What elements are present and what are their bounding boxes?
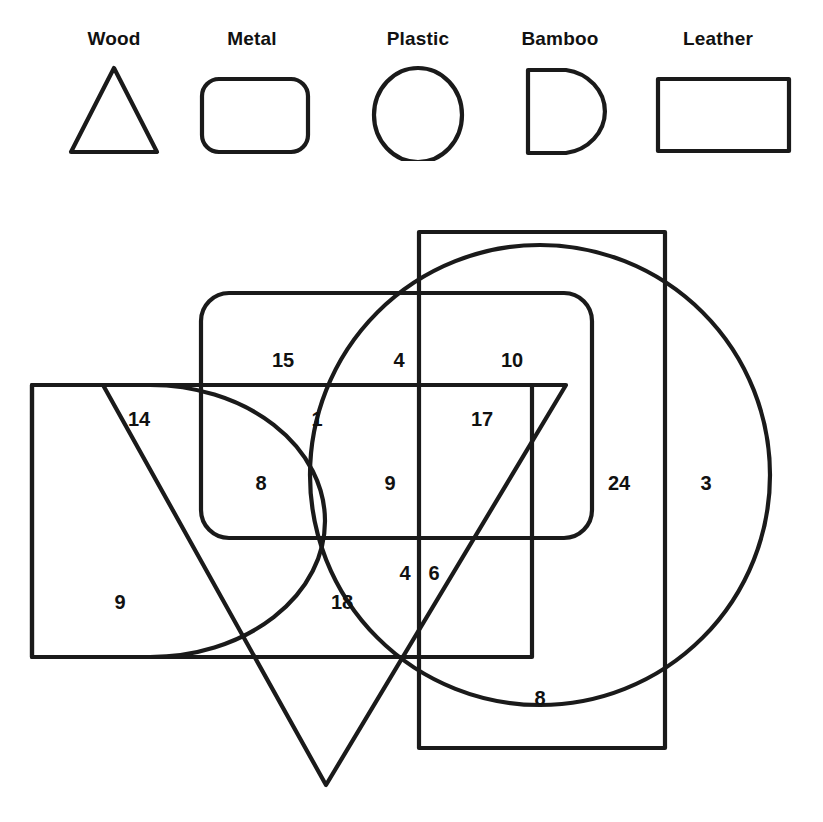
- region-label-3: 3: [700, 472, 711, 494]
- region-label-8-bottom: 8: [534, 687, 545, 709]
- d-shape-icon: [500, 56, 620, 161]
- region-label-1: 1: [311, 408, 322, 430]
- region-label-4-top: 4: [393, 349, 405, 371]
- legend-item-leather[interactable]: Leather: [648, 28, 788, 161]
- region-label-10: 10: [501, 349, 523, 371]
- venn-diagram-page: Wood Metal Plastic B: [0, 0, 823, 822]
- legend-label-plastic: Plastic: [358, 28, 478, 50]
- rounded-rectangle-shape-icon: [192, 56, 312, 161]
- region-label-9-left: 9: [114, 591, 125, 613]
- legend-label-leather: Leather: [648, 28, 788, 50]
- region-label-14: 14: [128, 408, 151, 430]
- legend-item-metal[interactable]: Metal: [192, 28, 312, 161]
- triangle-shape-icon: [54, 56, 174, 161]
- legend-item-plastic[interactable]: Plastic: [358, 28, 478, 161]
- set-shape-wood: [103, 385, 566, 785]
- region-label-15: 15: [272, 349, 294, 371]
- region-label-17: 17: [471, 408, 493, 430]
- region-label-8-mid: 8: [255, 472, 266, 494]
- region-label-4-low: 4: [399, 562, 411, 584]
- legend-label-bamboo: Bamboo: [500, 28, 620, 50]
- legend-label-wood: Wood: [54, 28, 174, 50]
- region-label-18: 18: [331, 591, 353, 613]
- legend: Wood Metal Plastic B: [0, 0, 823, 205]
- set-shape-leather: [32, 385, 532, 657]
- circle-shape-icon: [358, 56, 478, 161]
- legend-item-wood[interactable]: Wood: [54, 28, 174, 161]
- venn-shapes-area: 15 4 10 14 1 17 8 9 24 3 4 6 9 18 8: [0, 205, 823, 822]
- legend-label-metal: Metal: [192, 28, 312, 50]
- region-label-6: 6: [428, 562, 439, 584]
- legend-item-bamboo[interactable]: Bamboo: [500, 28, 620, 161]
- rectangle-shape-icon: [648, 56, 788, 161]
- region-label-24: 24: [608, 472, 631, 494]
- region-label-9-mid: 9: [384, 472, 395, 494]
